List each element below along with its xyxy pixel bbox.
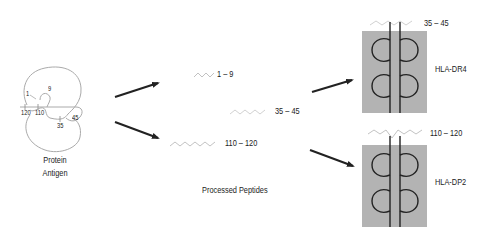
hla-dp2-peptide-label: 110 – 120 bbox=[430, 128, 462, 138]
peptide-label-110-120: 110 – 120 bbox=[225, 138, 257, 148]
arrow-protein-to-peptide-top bbox=[115, 83, 158, 97]
peptide-1-9-zigzag bbox=[194, 73, 214, 77]
peptide-110-120-zigzag bbox=[170, 142, 215, 146]
arrow-to-hla-dp2 bbox=[310, 150, 353, 166]
residue-label-9: 9 bbox=[48, 85, 51, 92]
peptide-35-45-zigzag bbox=[230, 110, 265, 114]
residue-label-110: 110 bbox=[35, 109, 44, 116]
hla-dr4-molecule bbox=[362, 21, 427, 113]
peptide-label-1-9: 1 – 9 bbox=[217, 69, 233, 79]
processed-peptides-caption: Processed Peptides bbox=[202, 185, 268, 195]
caption-line-antigen: Antigen bbox=[35, 167, 76, 180]
peptide-label-35-45: 35 – 45 bbox=[275, 106, 300, 116]
hla-dr4-label: HLA-DR4 bbox=[435, 64, 467, 74]
caption-line-protein: Protein bbox=[35, 154, 76, 167]
hla-dr4-peptide-label: 35 – 45 bbox=[424, 18, 449, 28]
hla-dp2-label: HLA-DP2 bbox=[435, 177, 466, 187]
diagram-canvas bbox=[0, 0, 488, 242]
arrow-protein-to-peptide-bottom bbox=[115, 122, 158, 138]
residue-label-45: 45 bbox=[72, 114, 78, 121]
residue-label-1: 1 bbox=[26, 90, 29, 97]
hla-dp2-molecule bbox=[362, 130, 427, 227]
residue-label-120: 120 bbox=[21, 109, 31, 116]
residue-label-35: 35 bbox=[57, 122, 63, 129]
protein-antigen-caption: Protein Antigen bbox=[35, 154, 76, 180]
arrow-to-hla-dr4 bbox=[312, 80, 352, 92]
